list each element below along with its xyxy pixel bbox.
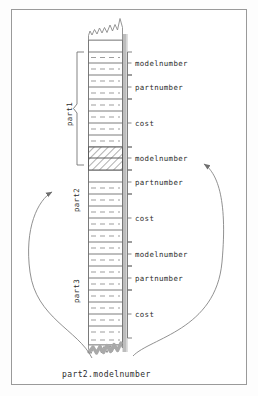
field-label-partnumber-part2: partnumber	[135, 179, 183, 186]
arrow-to-part2	[29, 192, 92, 358]
field-bracket-group	[128, 52, 133, 338]
field-label-partnumber-part1: partnumber	[135, 84, 183, 91]
field-label-cost-part1: cost	[135, 120, 154, 127]
part1-brace	[74, 52, 85, 165]
memory-column-shadow-bar	[123, 34, 128, 352]
field-label-modelnumber-part2: modelnumber	[135, 155, 188, 162]
field-label-modelnumber-part1: modelnumber	[135, 60, 188, 67]
field-label-partnumber-part3: partnumber	[135, 275, 183, 282]
diagram-caption: part2.modelnumber	[62, 371, 151, 379]
record-label-part2: part2	[73, 188, 80, 212]
record-label-part3: part3	[73, 279, 80, 303]
memory-column	[89, 19, 123, 355]
field-label-modelnumber-part3: modelnumber	[135, 251, 188, 258]
diagram-canvas: modelnumber partnumber cost modelnumber …	[0, 0, 258, 396]
field-label-cost-part3: cost	[135, 311, 154, 318]
diagram-artwork	[0, 0, 258, 396]
arrow-to-modelnumber-label	[133, 164, 224, 356]
record-label-part1: part1	[66, 102, 73, 126]
field-label-cost-part2: cost	[135, 215, 154, 222]
highlighted-field-block	[89, 147, 123, 170]
